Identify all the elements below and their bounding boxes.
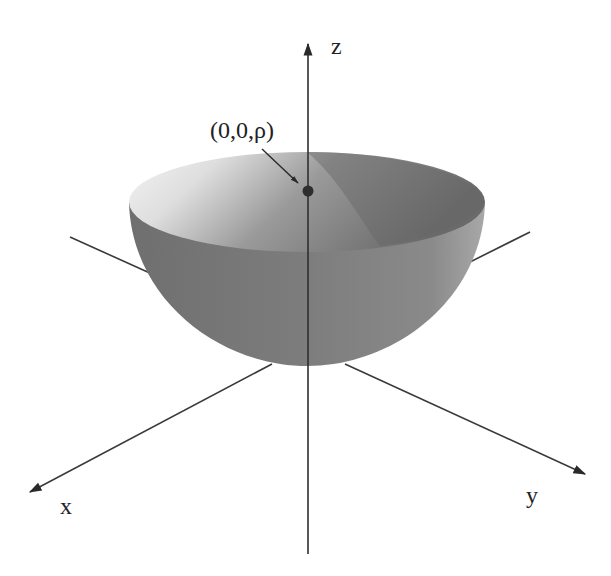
z-axis-label: z: [331, 33, 342, 59]
point-marker: [303, 186, 314, 197]
hemisphere-diagram: z x y (0,0,ρ): [0, 0, 611, 576]
y-axis-label: y: [526, 482, 538, 508]
y-axis-front: [345, 364, 585, 474]
point-label: (0,0,ρ): [210, 117, 274, 143]
x-axis-label: x: [60, 493, 72, 519]
x-axis-front: [30, 364, 272, 492]
